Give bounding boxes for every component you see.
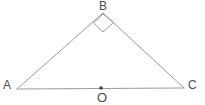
point-label-o: O [97,91,107,104]
vertex-label-a: A [3,79,11,91]
vertex-label-c: C [188,79,197,91]
segment-bc [103,13,184,88]
segment-ab [17,13,103,89]
right-angle-mark-icon [94,14,114,32]
geometry-figure: A B C O [0,0,205,105]
vertex-label-b: B [99,0,107,12]
